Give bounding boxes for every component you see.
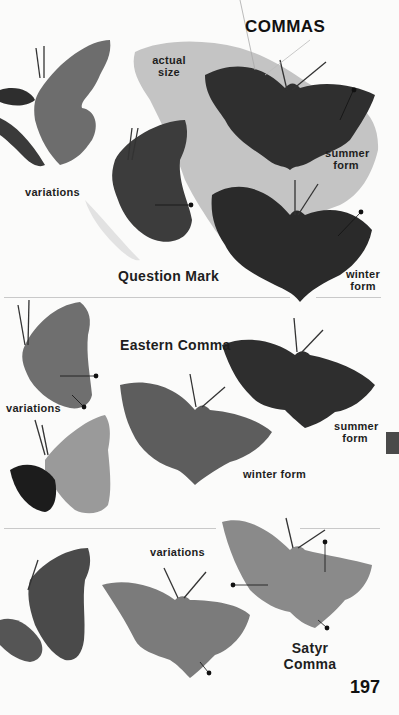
- question-mark-variation-butterfly: [34, 40, 110, 165]
- eastern-comma-variation-butterfly: [22, 302, 92, 408]
- satyr-comma-species-name: Satyr Comma: [282, 640, 338, 672]
- satyr-comma-variation2-butterfly: [102, 582, 250, 678]
- divider-bottom: [4, 528, 216, 529]
- question-mark-variation2-butterfly: [112, 120, 192, 242]
- question-mark-winter-label: winter form: [345, 268, 381, 292]
- divider-top: [4, 297, 290, 298]
- leaf-left: [0, 88, 35, 105]
- section-thumb-tab: [386, 432, 399, 454]
- eastern-comma-species-name: Eastern Comma: [120, 337, 231, 353]
- question-mark-variations-label: variations: [25, 186, 80, 198]
- page-number: 197: [350, 677, 380, 698]
- question-mark-summer-label: summer form: [325, 147, 367, 171]
- actual-size-label: actual size: [152, 54, 186, 78]
- illustrations: [0, 0, 399, 715]
- eastern-comma-summer-butterfly: [222, 340, 375, 428]
- eastern-comma-winter-label: winter form: [243, 468, 306, 480]
- divider-top-right: [316, 297, 381, 298]
- satyr-comma-variations-label: variations: [150, 546, 205, 558]
- question-mark-species-name: Question Mark: [118, 268, 219, 284]
- eastern-comma-variations-label: variations: [6, 402, 61, 414]
- divider-bottom-right: [300, 528, 380, 529]
- eastern-comma-summer-label: summer form: [334, 420, 376, 444]
- page-title: COMMAS: [245, 17, 325, 37]
